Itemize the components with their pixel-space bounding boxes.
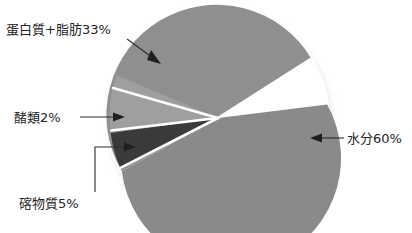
slice-label-carbohydrate: 醏類2% [14, 110, 61, 125]
slice-label-mineral: 碦物質5% [19, 196, 79, 211]
pie-chart-screenshot: 蛋白質+脂肪33% 醏類2% 碦物質5% 水分60% [0, 0, 412, 233]
slice-label-protein-fat: 蛋白質+脂肪33% [6, 22, 111, 37]
slice-label-water: 水分60% [347, 131, 402, 146]
